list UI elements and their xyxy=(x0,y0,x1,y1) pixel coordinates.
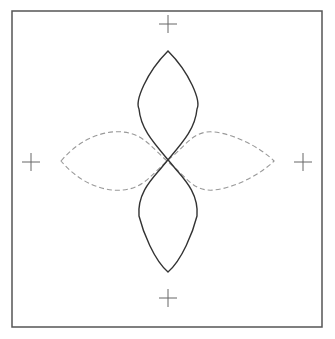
registration-mark-right xyxy=(294,153,312,171)
registration-mark-top xyxy=(159,15,177,33)
diagram-canvas xyxy=(0,0,335,339)
registration-mark-bottom xyxy=(159,289,177,307)
registration-mark-left xyxy=(22,153,40,171)
frame-border xyxy=(12,11,322,327)
solid-lemniscate-curve xyxy=(138,51,198,272)
